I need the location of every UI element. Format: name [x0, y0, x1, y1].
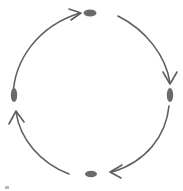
arrow-left-to-top-shaft [13, 13, 80, 96]
arrow-right-to-bottom[interactable] [110, 106, 169, 178]
node-right[interactable] [167, 88, 173, 102]
arrow-top-to-right-shaft [118, 16, 170, 83]
corner-speck-artifact [5, 186, 9, 189]
cycle-diagram [0, 0, 183, 191]
node-top[interactable] [84, 10, 97, 17]
arrow-bottom-to-left[interactable] [9, 111, 69, 174]
cycle-diagram-canvas [0, 0, 183, 191]
node-left[interactable] [11, 88, 17, 102]
arrow-right-to-bottom-shaft [112, 106, 169, 172]
node-bottom[interactable] [85, 171, 97, 177]
arrow-top-to-right[interactable] [118, 16, 177, 84]
arrow-left-to-top[interactable] [13, 9, 81, 96]
